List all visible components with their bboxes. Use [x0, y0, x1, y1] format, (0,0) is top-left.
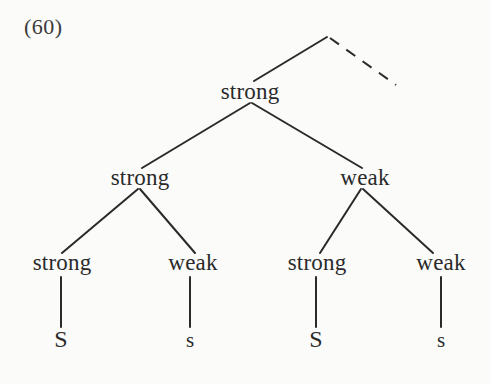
- tree-node-label: weak: [168, 251, 217, 274]
- tree-edge: [363, 189, 433, 253]
- tree-node-label: strong: [221, 80, 280, 103]
- tree-terminal-label: S: [309, 327, 322, 351]
- tree-terminal-label: S: [54, 327, 67, 351]
- tree-terminal-label: s: [186, 330, 194, 351]
- tree-terminal-label: s: [437, 330, 445, 351]
- tree-node-label: strong: [111, 166, 170, 189]
- tree-edge-dashed: [330, 38, 396, 85]
- tree-edge: [252, 103, 362, 168]
- tree-edge: [254, 37, 327, 81]
- tree-node-label: strong: [288, 251, 347, 274]
- tree-node-label: weak: [416, 251, 465, 274]
- tree-node-label: strong: [33, 251, 92, 274]
- tree-edge: [142, 103, 250, 168]
- tree-edge: [62, 189, 138, 253]
- tree-branch-lines: [0, 0, 491, 384]
- tree-edge: [320, 189, 361, 253]
- metrical-tree-figure: (60) strongstrongweakstrongweakstrongwea…: [0, 0, 491, 384]
- tree-node-label: weak: [340, 166, 389, 189]
- tree-edge: [140, 189, 195, 253]
